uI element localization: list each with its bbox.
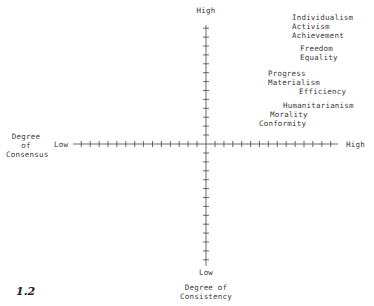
value-label: Efficiency <box>268 87 346 96</box>
vertical-axis-low-label: Low <box>196 268 216 277</box>
figure-number: 1.2 <box>16 285 35 298</box>
value-label: Materialism <box>268 78 346 87</box>
value-label: Humanitarianism <box>259 101 354 110</box>
vertical-axis-title-line: Consistency <box>176 292 236 301</box>
horizontal-axis-title-line: Consensus <box>6 150 46 159</box>
horizontal-axis-high-label: High <box>346 140 365 149</box>
value-label: Achievement <box>292 31 353 40</box>
value-label: Individualism <box>292 13 353 22</box>
value-group-humanitarianism: Humanitarianism Morality Conformity <box>259 101 354 128</box>
vertical-axis-title-line: Degree of <box>176 283 236 292</box>
value-label: Morality <box>259 110 354 119</box>
horizontal-axis-title-line: Degree <box>6 132 46 141</box>
value-label: Freedom <box>300 44 338 53</box>
horizontal-axis-title-line: of <box>6 141 46 150</box>
horizontal-axis-title: Degree of Consensus <box>6 132 46 159</box>
value-label: Equality <box>300 53 338 62</box>
value-group-progress: Progress Materialism Efficiency <box>268 69 346 96</box>
value-label: Conformity <box>259 119 354 128</box>
horizontal-axis-low-label: Low <box>54 140 68 149</box>
value-label: Progress <box>268 69 346 78</box>
value-group-freedom: Freedom Equality <box>300 44 338 62</box>
vertical-axis-high-label: High <box>196 6 216 15</box>
vertical-axis-title: Degree of Consistency <box>176 283 236 301</box>
value-group-individualism: Individualism Activism Achievement <box>292 13 353 40</box>
value-label: Activism <box>292 22 353 31</box>
